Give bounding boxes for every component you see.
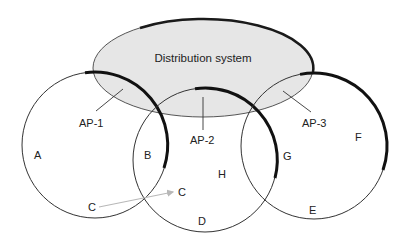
station-a-label: A [34,149,42,161]
ap-1-label: AP-1 [79,117,103,129]
station-g-label: G [283,150,292,162]
station-c-old-label: C [88,201,96,213]
station-b-label: B [144,149,151,161]
station-d-label: D [198,215,206,227]
station-c-movement-arrow [99,192,173,207]
wlan-diagram: Distribution system AP-1 AP-2 AP-3 A B C… [0,0,407,248]
station-f-label: F [355,131,362,143]
station-h-label: H [218,168,226,180]
ap-3-label: AP-3 [302,117,326,129]
ap-3-leader-line [283,91,311,112]
station-e-label: E [309,204,316,216]
station-c-new-label: C [178,186,186,198]
distribution-system-label: Distribution system [154,52,251,64]
ap-2-label: AP-2 [190,134,214,146]
